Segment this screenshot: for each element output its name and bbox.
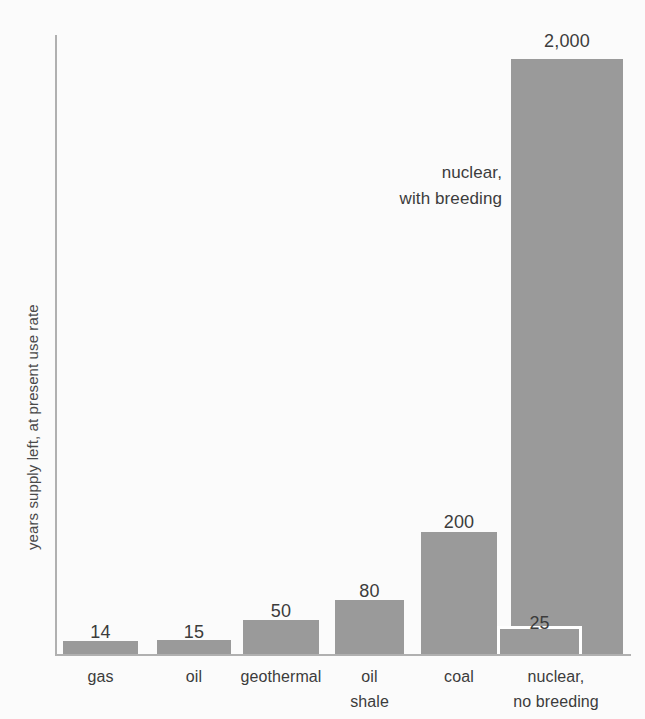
bar-oil-shale xyxy=(335,600,404,654)
bar-value-coal: 200 xyxy=(421,512,497,533)
bar-value-25: 25 xyxy=(497,613,582,634)
bar-chart: years supply left, at present use rate 2… xyxy=(0,0,645,719)
bar-value-2000: 2,000 xyxy=(511,31,623,52)
bar-value-oil-shale: 80 xyxy=(335,581,404,602)
bar-geothermal xyxy=(243,620,319,654)
x-tick-label-oil-shale: oil shale xyxy=(335,664,404,714)
bar-value-geothermal: 50 xyxy=(243,601,319,622)
x-tick-label-geothermal: geothermal xyxy=(231,664,331,689)
plot-area: 2,000 14 15 50 80 200 25 nuclear, with b… xyxy=(0,0,645,654)
x-axis-line xyxy=(55,654,631,656)
bar-value-oil: 15 xyxy=(157,622,231,643)
x-tick-label-nuclear-no-breeding: nuclear, no breeding xyxy=(483,664,629,714)
bar-coal xyxy=(421,532,497,654)
bar-value-gas: 14 xyxy=(63,622,138,643)
bar-nuclear-with-breeding xyxy=(511,59,623,654)
x-tick-label-gas: gas xyxy=(63,664,138,689)
x-tick-label-oil: oil xyxy=(157,664,231,689)
annotation-nuclear-with-breeding: nuclear, with breeding xyxy=(330,160,502,212)
